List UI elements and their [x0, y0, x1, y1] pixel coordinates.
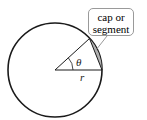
radius-label: r: [80, 71, 84, 83]
angle-arc: [68, 58, 73, 70]
angle-label: θ: [76, 56, 81, 68]
callout-box: cap or segment: [88, 8, 134, 36]
callout-pointer: [96, 36, 107, 50]
callout-line-1: cap or: [89, 11, 133, 23]
callout-line-2: segment: [89, 23, 133, 35]
